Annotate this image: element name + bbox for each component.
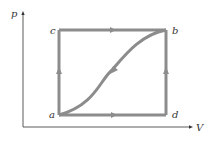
arrow-up-icon [163,67,169,74]
arrow-right-icon [111,112,117,118]
direction-arrows [56,27,169,118]
pv-diagram: p V a b c d [0,0,210,142]
point-a-label: a [49,109,55,120]
point-b-label: b [172,25,178,36]
v-axis-label: V [196,122,205,133]
p-axis-arrow-icon [21,11,24,15]
point-c-label: c [50,25,56,36]
p-axis-label: p [11,8,18,19]
arrow-right-icon [110,27,116,33]
point-d-label: d [172,109,178,120]
v-axis-arrow-icon [189,125,193,128]
arrow-up-icon [56,67,62,74]
